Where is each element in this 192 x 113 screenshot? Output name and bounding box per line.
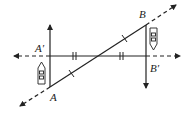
reflection-diagram: A′ A B B′ bbox=[0, 0, 192, 113]
boat-icon-left bbox=[38, 62, 45, 84]
label-b: B bbox=[139, 8, 146, 20]
dashed-lower-left-arrow bbox=[20, 87, 50, 106]
dashed-upper-right-arrow bbox=[146, 5, 176, 25]
single-tick-lower bbox=[69, 70, 74, 77]
label-a: A bbox=[49, 91, 57, 103]
single-tick-upper bbox=[122, 35, 127, 42]
boat-icon-right bbox=[150, 28, 157, 50]
label-a-prime: A′ bbox=[34, 42, 45, 54]
label-b-prime: B′ bbox=[150, 62, 160, 74]
